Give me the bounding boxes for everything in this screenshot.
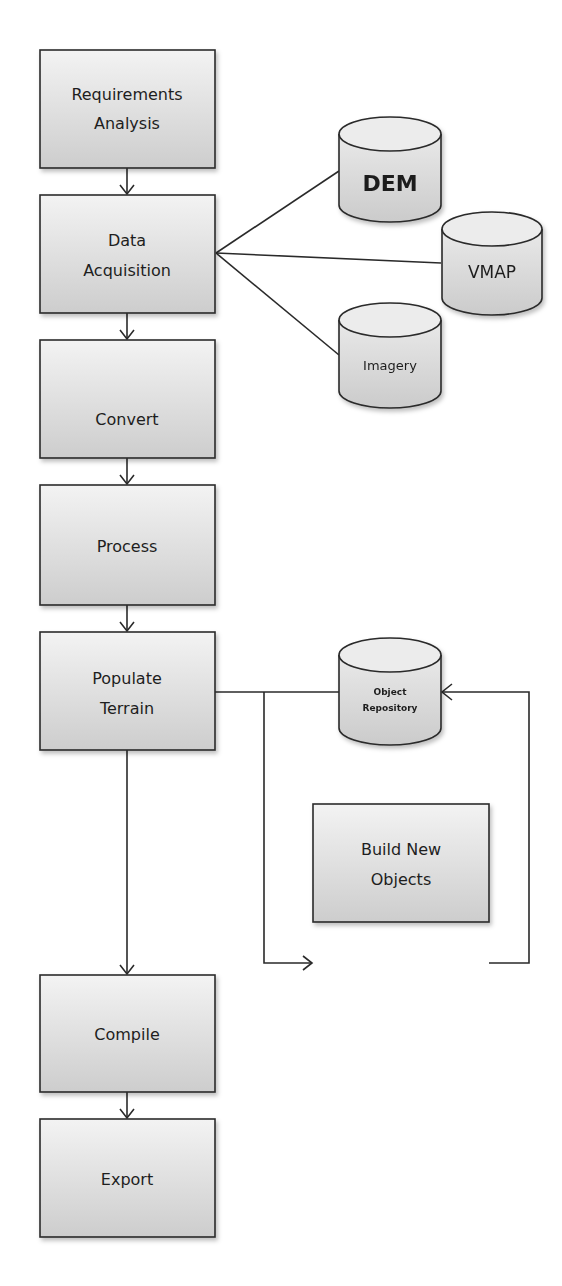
arrow-compile-to-export: [120, 1092, 134, 1118]
arrow-convert-to-process: [120, 458, 134, 484]
step-label-line2: Acquisition: [83, 261, 171, 280]
step-label: Convert: [95, 410, 158, 429]
arrow-populate-to-build: [264, 692, 312, 970]
process-step-populate-terrain[interactable]: Populate Terrain: [40, 632, 215, 750]
datastore-label-line2: Repository: [363, 703, 418, 713]
link-acquisition-imagery: [216, 253, 339, 355]
arrow-process-to-populate: [120, 605, 134, 631]
arrow-requirements-to-acquisition: [120, 168, 134, 194]
datastore-dem[interactable]: DEM: [339, 117, 441, 222]
process-step-convert[interactable]: Convert: [40, 340, 215, 458]
step-label-line1: Requirements: [71, 85, 182, 104]
link-acquisition-vmap: [216, 253, 441, 263]
link-acquisition-dem: [216, 171, 339, 253]
arrow-acquisition-to-convert: [120, 313, 134, 339]
datastore-imagery[interactable]: Imagery: [339, 303, 441, 408]
datastore-label: Imagery: [363, 358, 417, 373]
process-step-process[interactable]: Process: [40, 485, 215, 605]
datastore-label: DEM: [362, 171, 417, 196]
step-label-line1: Build New: [361, 840, 441, 859]
datastore-vmap[interactable]: VMAP: [442, 212, 542, 315]
datastore-label-line1: Object: [374, 687, 408, 697]
step-label-line2: Analysis: [94, 114, 160, 133]
datastore-label: VMAP: [468, 262, 516, 282]
flowchart-diagram: Requirements Analysis Data Acquisition C…: [0, 0, 562, 1286]
step-label: Compile: [94, 1025, 159, 1044]
process-step-data-acquisition[interactable]: Data Acquisition: [40, 195, 215, 313]
process-step-requirements-analysis[interactable]: Requirements Analysis: [40, 50, 215, 168]
step-label-line1: Data: [108, 231, 146, 250]
step-label: Process: [97, 537, 158, 556]
step-label-line2: Terrain: [99, 699, 154, 718]
process-step-compile[interactable]: Compile: [40, 975, 215, 1092]
process-step-export[interactable]: Export: [40, 1119, 215, 1237]
step-label: Export: [101, 1170, 153, 1189]
datastore-object-repository[interactable]: Object Repository: [339, 638, 441, 745]
arrow-populate-to-compile: [120, 750, 134, 974]
process-step-build-new-objects[interactable]: Build New Objects: [313, 804, 489, 922]
step-label-line1: Populate: [92, 669, 162, 688]
step-label-line2: Objects: [371, 870, 431, 889]
